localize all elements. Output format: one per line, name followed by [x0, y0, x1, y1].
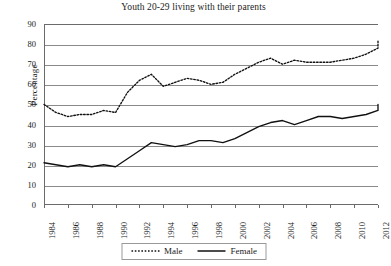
x-tick-1984: 1984: [48, 222, 57, 239]
x-tick-2004: 2004: [287, 222, 296, 239]
x-tick-2008: 2008: [334, 222, 343, 239]
x-tick-2002: 2002: [263, 222, 272, 239]
series-line-male: [44, 40, 378, 116]
x-tickmark-1986: [68, 205, 69, 208]
y-tick-30: 30: [0, 140, 36, 149]
x-tickmark-2012: [378, 205, 379, 208]
x-tick-2012: 2012: [382, 222, 391, 239]
y-axis-tick-labels: 9080706050403020100: [0, 24, 41, 205]
x-tickmark-1992: [139, 205, 140, 208]
x-tick-2010: 2010: [358, 222, 367, 239]
x-tick-1988: 1988: [96, 222, 105, 239]
x-tickmark-1988: [92, 205, 93, 208]
x-tickmark-1984: [44, 205, 45, 208]
legend-item-male: Male: [130, 246, 183, 256]
y-tick-80: 80: [0, 40, 36, 49]
x-tick-1998: 1998: [215, 222, 224, 239]
legend-item-female: Female: [197, 246, 258, 256]
x-tick-2000: 2000: [239, 222, 248, 239]
x-tickmark-2008: [330, 205, 331, 208]
y-tick-0: 0: [0, 201, 36, 210]
x-tickmark-1996: [187, 205, 188, 208]
x-tickmark-1994: [163, 205, 164, 208]
legend-label-male: Male: [164, 246, 183, 256]
x-tickmark-2004: [283, 205, 284, 208]
y-tick-10: 10: [0, 180, 36, 189]
legend-swatch-female-solid: [197, 247, 227, 255]
y-tick-90: 90: [0, 20, 36, 29]
x-tickmark-2002: [259, 205, 260, 208]
x-tick-1990: 1990: [120, 222, 129, 239]
x-tickmark-2010: [354, 205, 355, 208]
series-layer: [44, 24, 378, 205]
legend-swatch-male-dotted: [130, 247, 160, 255]
y-tick-50: 50: [0, 100, 36, 109]
x-tick-1996: 1996: [191, 222, 200, 239]
x-tick-2006: 2006: [310, 222, 319, 239]
y-tick-40: 40: [0, 120, 36, 129]
y-tick-20: 20: [0, 160, 36, 169]
chart-title: Youth 20-29 living with their parents: [0, 2, 387, 12]
x-tickmark-2006: [306, 205, 307, 208]
x-tickmark-1998: [211, 205, 212, 208]
y-tick-70: 70: [0, 60, 36, 69]
x-tickmark-1990: [116, 205, 117, 208]
x-tick-1986: 1986: [72, 222, 81, 239]
x-tickmark-2000: [235, 205, 236, 208]
y-tick-60: 60: [0, 80, 36, 89]
chart-legend: Male Female: [121, 243, 266, 260]
x-tick-1994: 1994: [167, 222, 176, 239]
x-axis-tick-labels: 1984198619881990199219941996199820002002…: [44, 205, 378, 245]
x-tick-1992: 1992: [143, 222, 152, 239]
legend-label-female: Female: [231, 246, 258, 256]
